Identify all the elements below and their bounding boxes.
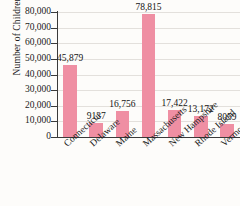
y-axis-tick bbox=[51, 90, 57, 91]
x-axis-labels-layer: ConnecticutDelawareMaineMassachusettsNew… bbox=[0, 0, 240, 206]
y-axis-tick bbox=[51, 28, 57, 29]
y-axis-tick bbox=[51, 106, 57, 107]
y-axis-tick bbox=[51, 43, 57, 44]
y-axis-tick bbox=[51, 75, 57, 76]
y-axis-tick bbox=[51, 59, 57, 60]
x-axis-label: Maine bbox=[114, 125, 139, 149]
y-axis-tick bbox=[51, 121, 57, 122]
y-axis-tick bbox=[51, 137, 57, 138]
y-axis-tick bbox=[51, 12, 57, 13]
bar-chart: Number of Children 010,00020,00030,00040… bbox=[0, 0, 240, 206]
